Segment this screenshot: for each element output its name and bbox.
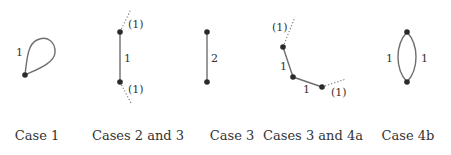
- caption: Cases 2 and 3: [92, 128, 184, 143]
- edge-label: 1: [124, 52, 131, 65]
- half-edge-label-top: (1): [272, 21, 288, 34]
- edge-label-right: 1: [421, 52, 428, 65]
- half-edge-label-bottom: (1): [128, 83, 144, 96]
- vertex: [22, 72, 28, 78]
- vertex-bottom: [117, 79, 123, 85]
- vertex-top: [404, 29, 410, 35]
- half-edge-label-top: (1): [128, 18, 144, 31]
- panel-case-4b: 1 1 Case 4b: [382, 29, 435, 143]
- edge-label: 2: [211, 52, 218, 65]
- caption: Cases 3 and 4a: [263, 128, 363, 143]
- edge-label-2: 1: [303, 83, 310, 96]
- caption: Case 4b: [382, 128, 435, 143]
- panel-cases-2-and-3: (1) (1) 1 Cases 2 and 3: [92, 9, 184, 143]
- vertex-middle: [290, 74, 296, 80]
- edge-label-1: 1: [280, 60, 287, 73]
- vertex-top: [280, 44, 286, 50]
- panel-cases-3-and-4a: (1) (1) 1 1 Cases 3 and 4a: [263, 17, 363, 143]
- caption: Case 3: [210, 128, 254, 143]
- half-edge-label-right: (1): [331, 86, 347, 99]
- edge-label-left: 1: [386, 52, 393, 65]
- vertex-top: [117, 29, 123, 35]
- panel-case-3: 2 Case 3: [204, 29, 254, 143]
- caption: Case 1: [15, 128, 59, 143]
- edge-right: [407, 32, 416, 82]
- case-diagrams-figure: 1 Case 1 (1) (1) 1 Cases 2 and 3 2 Case …: [0, 0, 451, 155]
- edge-left: [398, 32, 407, 82]
- edge-label: 1: [16, 46, 23, 59]
- vertex-right: [319, 84, 325, 90]
- vertex-bottom: [404, 79, 410, 85]
- vertex-bottom: [204, 79, 210, 85]
- vertex-top: [204, 29, 210, 35]
- panel-case-1: 1 Case 1: [15, 38, 59, 143]
- loop-edge: [25, 38, 55, 75]
